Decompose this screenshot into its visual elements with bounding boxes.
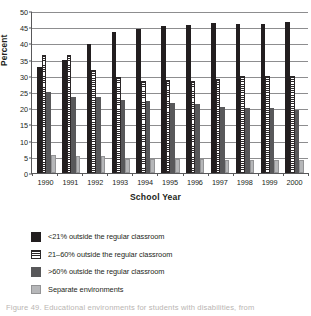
x-axis-tick-mark bbox=[183, 173, 184, 176]
x-axis-tick-label: 1996 bbox=[182, 178, 207, 187]
x-axis-tick-mark bbox=[258, 173, 259, 176]
legend-item-label: Separate environments bbox=[48, 285, 123, 294]
x-axis-title: School Year bbox=[0, 192, 311, 202]
legend-item: 21–60% outside the regular classroom bbox=[31, 246, 291, 264]
bar bbox=[274, 160, 279, 173]
bar-group bbox=[108, 12, 133, 173]
bar-group bbox=[133, 12, 158, 173]
x-axis-tick-mark bbox=[308, 173, 309, 176]
bar-group bbox=[84, 12, 109, 173]
bar-groups bbox=[32, 12, 308, 173]
legend-swatch-icon bbox=[31, 250, 41, 260]
x-axis-tick-label: 1992 bbox=[83, 178, 108, 187]
bar bbox=[76, 156, 81, 173]
bar bbox=[150, 159, 155, 173]
bar bbox=[250, 160, 255, 173]
bar-group bbox=[158, 12, 183, 173]
x-axis-tick-mark bbox=[107, 173, 108, 176]
x-axis-tick-mark bbox=[82, 173, 83, 176]
bar-group bbox=[183, 12, 208, 173]
x-axis-tick-label: 1993 bbox=[108, 178, 133, 187]
bar-group bbox=[34, 12, 59, 173]
bar-group bbox=[59, 12, 84, 173]
bar-group bbox=[257, 12, 282, 173]
bar-group bbox=[282, 12, 307, 173]
y-axis-tick-label: 20 bbox=[20, 105, 28, 114]
y-axis-tick-label: 0 bbox=[24, 170, 28, 179]
x-axis-tick-label: 2000 bbox=[282, 178, 307, 187]
legend-item-label: <21% outside the regular classroom bbox=[48, 232, 164, 241]
bar bbox=[125, 159, 130, 173]
y-axis-tick-label: 30 bbox=[20, 72, 28, 81]
x-axis-tick-label: 1994 bbox=[133, 178, 158, 187]
bar bbox=[101, 156, 106, 173]
x-axis-tick-label: 1999 bbox=[257, 178, 282, 187]
legend-swatch-icon bbox=[31, 232, 41, 242]
y-axis-tick-label: 15 bbox=[20, 121, 28, 130]
bar bbox=[175, 159, 180, 173]
legend-item-label: >60% outside the regular classroom bbox=[48, 267, 164, 276]
x-axis-tick-mark bbox=[208, 173, 209, 176]
y-axis-tick-label: 45 bbox=[20, 24, 28, 33]
x-axis-tick-label: 1995 bbox=[158, 178, 183, 187]
bar bbox=[200, 159, 205, 173]
bar bbox=[225, 160, 230, 173]
y-axis-tick-label: 25 bbox=[20, 89, 28, 98]
chart-legend: <21% outside the regular classroom21–60%… bbox=[31, 228, 291, 298]
x-axis-tick-mark bbox=[283, 173, 284, 176]
figure-educational-environments: Percent 05101520253035404550 19901991199… bbox=[0, 0, 311, 316]
x-axis-tick-mark bbox=[157, 173, 158, 176]
legend-swatch-icon bbox=[31, 267, 41, 277]
y-axis-tick-label: 40 bbox=[20, 40, 28, 49]
bar-group bbox=[208, 12, 233, 173]
bar bbox=[51, 155, 56, 173]
x-axis-tick-label: 1998 bbox=[232, 178, 257, 187]
x-axis-tick-mark bbox=[57, 173, 58, 176]
figure-caption: Figure 49. Educational environments for … bbox=[6, 303, 307, 312]
legend-item: Separate environments bbox=[31, 281, 291, 299]
x-axis-tick-label: 1991 bbox=[58, 178, 83, 187]
y-axis-title: Percent bbox=[0, 35, 9, 66]
x-axis-tick-mark bbox=[32, 173, 33, 176]
x-axis-tick-labels: 1990199119921993199419951996199719981999… bbox=[31, 178, 308, 187]
x-axis-tick-mark bbox=[132, 173, 133, 176]
bar-group bbox=[233, 12, 258, 173]
y-axis-tick-label: 50 bbox=[20, 8, 28, 17]
y-axis-tick-label: 5 bbox=[24, 153, 28, 162]
legend-item: >60% outside the regular classroom bbox=[31, 263, 291, 281]
legend-item: <21% outside the regular classroom bbox=[31, 228, 291, 246]
plot-area: 05101520253035404550 bbox=[31, 12, 308, 174]
legend-swatch-icon bbox=[31, 285, 41, 295]
x-axis-tick-label: 1990 bbox=[33, 178, 58, 187]
x-axis-tick-label: 1997 bbox=[207, 178, 232, 187]
bar bbox=[299, 160, 304, 173]
x-axis-tick-mark bbox=[233, 173, 234, 176]
y-axis-tick-label: 35 bbox=[20, 56, 28, 65]
legend-item-label: 21–60% outside the regular classroom bbox=[48, 250, 172, 259]
y-axis-tick-label: 10 bbox=[20, 137, 28, 146]
